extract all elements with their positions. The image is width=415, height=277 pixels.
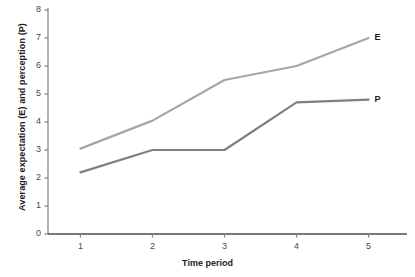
plot-area (0, 0, 415, 277)
series-line-e (80, 38, 368, 149)
line-chart: Average expectation (E) and perception (… (0, 0, 415, 277)
series-line-p (80, 100, 368, 173)
